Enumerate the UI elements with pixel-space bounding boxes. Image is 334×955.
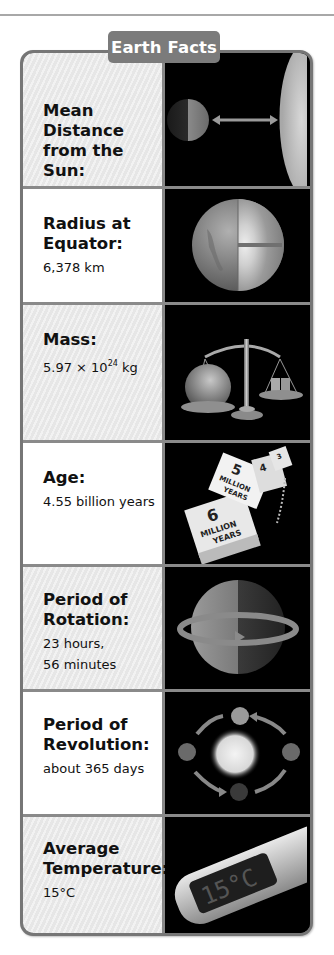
earth-cross-section-illustration [165, 189, 310, 302]
fact-row-rotation: Period of Rotation: 23 hours, 56 minutes [23, 567, 310, 689]
calendar-icon: 6 MILLION YEARS 5 MILLION YEARS 4 3 [165, 443, 307, 564]
mass-base: 5.97 × 10 [43, 360, 108, 375]
fact-text-cell: Period of Revolution: about 365 days [23, 692, 165, 814]
row-divider [23, 814, 310, 817]
fact-label: Mean Distance [43, 101, 162, 141]
rotating-earth-icon [165, 567, 307, 689]
panel-title: Earth Facts [111, 38, 217, 57]
fact-value: 5.97 × 1024 kg [43, 355, 162, 377]
row-divider [23, 440, 310, 443]
rotating-earth-illustration [165, 567, 310, 689]
fact-row-mass: Mass: 5.97 × 1024 kg [23, 305, 310, 440]
fact-label: Equator: [43, 234, 162, 254]
mass-exponent: 24 [108, 359, 118, 368]
thermometer-icon: 15°C [165, 817, 307, 933]
thermometer-illustration: 15°C [165, 817, 310, 933]
fact-value: 15°C [43, 884, 162, 902]
fact-text-cell: Age: 4.55 billion years [23, 443, 165, 564]
fact-label: Age: [43, 468, 162, 488]
fact-label: Revolution: [43, 735, 162, 755]
fact-label: from the Sun: [43, 141, 162, 181]
fact-text-cell: Mean Distance from the Sun: 149.6 millio… [23, 53, 165, 186]
mass-unit: kg [118, 360, 138, 375]
fact-text-cell: Period of Rotation: 23 hours, 56 minutes [23, 567, 165, 689]
row-divider [23, 564, 310, 567]
fact-value: about 365 days [43, 760, 162, 778]
fact-label: Average [43, 839, 162, 859]
fact-row-temperature: Average Temperature: 15°C 15°C [23, 817, 310, 933]
fact-label: Mass: [43, 330, 162, 350]
fact-value: 56 minutes [43, 656, 162, 674]
row-divider [23, 186, 310, 189]
orbit-illustration [165, 692, 310, 814]
fact-label: Period of [43, 590, 162, 610]
fact-text-cell: Average Temperature: 15°C [23, 817, 165, 933]
fact-label: Radius at [43, 214, 162, 234]
row-divider [23, 302, 310, 305]
balance-scale-illustration [165, 305, 310, 440]
fact-row-distance: Mean Distance from the Sun: 149.6 millio… [23, 53, 310, 186]
balance-scale-icon [165, 305, 307, 440]
top-rule [0, 14, 334, 16]
earth-facts-panel: Mean Distance from the Sun: 149.6 millio… [20, 50, 313, 936]
fact-label: Period of [43, 715, 162, 735]
fact-value: 23 hours, [43, 635, 162, 653]
fact-text-cell: Radius at Equator: 6,378 km [23, 189, 165, 302]
fact-row-age: Age: 4.55 billion years 6 MILLION YEARS … [23, 443, 310, 564]
fact-label: Temperature: [43, 859, 162, 879]
fact-row-revolution: Period of Revolution: about 365 days [23, 692, 310, 814]
fact-value: 4.55 billion years [43, 493, 162, 511]
calendar-pages-illustration: 6 MILLION YEARS 5 MILLION YEARS 4 3 [165, 443, 310, 564]
fact-text-cell: Mass: 5.97 × 1024 kg [23, 305, 165, 440]
panel-title-tab: Earth Facts [108, 31, 220, 63]
fact-value: 6,378 km [43, 259, 162, 277]
orbit-icon [165, 692, 307, 814]
earth-sun-distance-illustration [165, 53, 310, 186]
fact-label: Rotation: [43, 610, 162, 630]
fact-row-radius: Radius at Equator: 6,378 km [23, 189, 310, 302]
earth-sun-icon [165, 53, 307, 186]
row-divider [23, 689, 310, 692]
earth-core-icon [165, 189, 307, 302]
